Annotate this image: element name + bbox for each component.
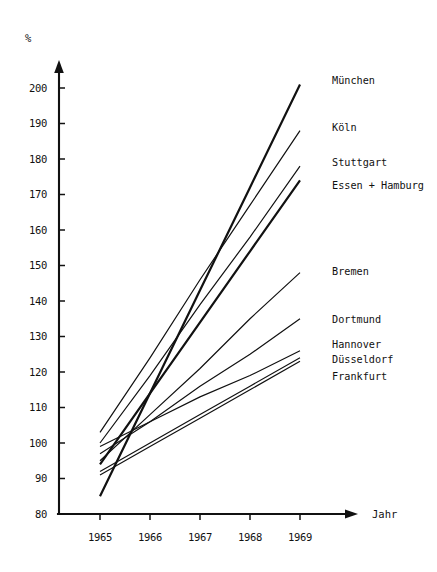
x-axis-title: Jahr <box>372 508 397 520</box>
series-label: Dortmund <box>332 314 381 325</box>
y-axis-title: % <box>25 32 32 44</box>
y-tick-label: 130 <box>29 330 47 342</box>
y-tick-label: 80 <box>35 508 47 520</box>
y-tick-label: 90 <box>35 472 47 484</box>
x-tick-label: 1968 <box>238 531 262 543</box>
y-tick-label: 100 <box>29 437 47 449</box>
series-label: Bremen <box>332 266 369 277</box>
y-tick-label: 120 <box>29 366 47 378</box>
x-tick-label: 1966 <box>138 531 162 543</box>
y-tick-label: 160 <box>29 224 47 236</box>
series-label: München <box>332 75 375 86</box>
y-tick-label: 170 <box>29 188 47 200</box>
y-tick-label: 180 <box>29 153 47 165</box>
y-tick-label: 200 <box>29 82 47 94</box>
series-label: Düsseldorf <box>332 354 393 365</box>
y-tick-label: 190 <box>29 117 47 129</box>
y-tick-label: 150 <box>29 259 47 271</box>
series-label: Köln <box>332 122 357 133</box>
x-tick-label: 1967 <box>188 531 212 543</box>
series-label: Hannover <box>332 339 381 350</box>
series-label: Stuttgart <box>332 157 387 168</box>
y-tick-label: 140 <box>29 295 47 307</box>
series-label: Frankfurt <box>332 371 387 382</box>
chart-container: % Jahr 809010011012013014015016017018019… <box>0 0 437 572</box>
series-label: Essen + Hamburg <box>332 180 424 191</box>
line-chart: % Jahr 809010011012013014015016017018019… <box>0 0 437 572</box>
x-tick-label: 1965 <box>88 531 112 543</box>
x-tick-label: 1969 <box>288 531 312 543</box>
y-tick-label: 110 <box>29 401 47 413</box>
